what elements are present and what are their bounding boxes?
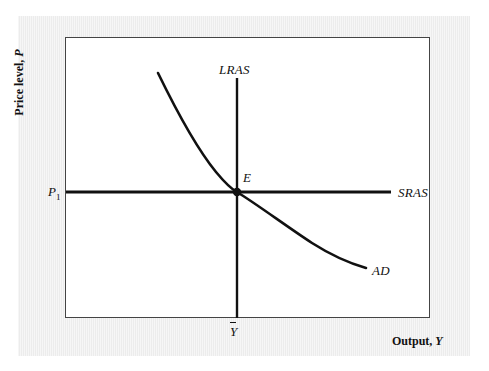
ad-as-diagram-figure: Price level, P Output, Y LRAS SRAS AD E … (0, 0, 489, 371)
x-axis-title-symbol: Y (435, 334, 442, 348)
equilibrium-point-label: E (243, 170, 251, 186)
sras-label: SRAS (398, 185, 428, 201)
y-axis-title: Price level, P (12, 33, 27, 133)
lras-label: LRAS (219, 62, 250, 78)
x-tick-label-ybar: Y (230, 322, 237, 340)
ad-label: AD (372, 263, 390, 279)
y-axis-title-symbol: P (12, 49, 26, 56)
y-tick-label-p1-symbol: P (48, 184, 56, 199)
y-tick-label-p1: P1 (48, 184, 60, 202)
x-tick-label-ybar-overbar: Y (230, 322, 237, 340)
x-axis-title-text: Output, (392, 334, 435, 348)
y-tick-label-p1-subscript: 1 (56, 192, 61, 202)
y-axis-title-text: Price level, (12, 57, 26, 116)
x-axis-title: Output, Y (392, 334, 443, 349)
x-tick-label-ybar-symbol: Y (230, 322, 237, 340)
